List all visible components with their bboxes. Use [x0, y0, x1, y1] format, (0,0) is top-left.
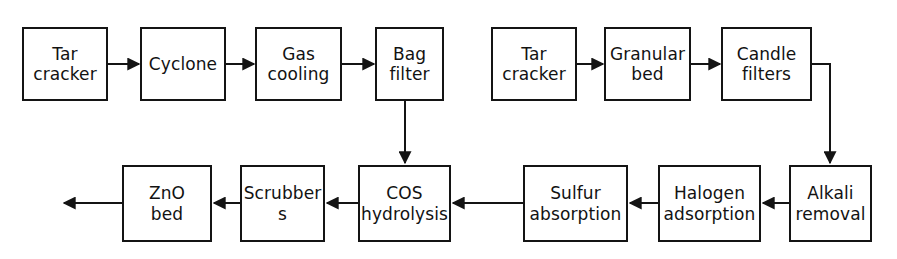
node-label: Cyclone	[147, 54, 219, 74]
node-candle-filters[interactable]: Candle filters	[721, 27, 812, 101]
node-halogen-adsorption[interactable]: Halogen adsorption	[658, 165, 761, 242]
node-label: Bag filter	[387, 44, 431, 84]
node-label: Tar cracker	[500, 44, 568, 84]
node-label: ZnO bed	[147, 183, 187, 223]
node-tar-cracker-a[interactable]: Tar cracker	[22, 27, 108, 101]
node-label: Sulfur absorption	[528, 183, 624, 223]
node-granular-bed[interactable]: Granular bed	[604, 27, 691, 101]
node-bag-filter[interactable]: Bag filter	[375, 27, 444, 101]
node-label: Granular bed	[608, 44, 687, 84]
node-label: Scrubber s	[242, 183, 324, 223]
arrow-candle-filters-to-alkali-removal	[812, 64, 830, 163]
node-zno-bed[interactable]: ZnO bed	[122, 165, 212, 242]
node-label: Halogen adsorption	[662, 183, 758, 223]
node-label: Tar cracker	[31, 44, 99, 84]
node-scrubbers[interactable]: Scrubber s	[240, 165, 325, 242]
node-tar-cracker-b[interactable]: Tar cracker	[491, 27, 577, 101]
node-label: Alkali removal	[794, 183, 868, 223]
node-label: COS hydrolysis	[359, 183, 450, 223]
node-label: Candle filters	[735, 44, 799, 84]
node-sulfur-absorption[interactable]: Sulfur absorption	[523, 165, 628, 242]
node-gas-cooling[interactable]: Gas cooling	[255, 27, 342, 101]
node-cos-hydrolysis[interactable]: COS hydrolysis	[358, 165, 451, 242]
node-cyclone[interactable]: Cyclone	[140, 27, 226, 101]
node-alkali-removal[interactable]: Alkali removal	[789, 165, 872, 242]
flowchart-canvas: Tar cracker Cyclone Gas cooling Bag filt…	[0, 0, 897, 259]
node-label: Gas cooling	[266, 44, 332, 84]
